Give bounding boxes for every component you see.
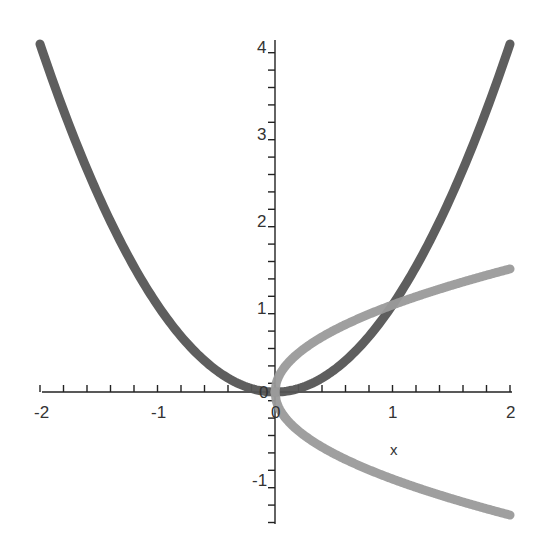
x-tick-label-neg2: -2: [34, 403, 49, 422]
x-axis-label: x: [390, 441, 398, 458]
x-tick-label-neg1: -1: [151, 403, 166, 422]
y-tick-label-2: 2: [257, 212, 266, 231]
y-tick-label-1: 1: [257, 299, 266, 318]
y-axis-ticks: [268, 53, 275, 523]
y-tick-label-4: 4: [257, 38, 266, 57]
axes: [42, 40, 512, 524]
y-tick-label-0: 0: [259, 383, 268, 402]
x-tick-label-2: 2: [506, 403, 515, 422]
curve-sqrt-positive: [275, 269, 510, 392]
y-tick-label-neg1: -1: [252, 471, 267, 490]
plot-area: -2 -1 0 1 2 4 3 2 1 0 -1 x: [0, 0, 547, 548]
x-tick-label-0: 0: [271, 403, 280, 422]
x-tick-label-1: 1: [388, 403, 397, 422]
y-tick-label-3: 3: [257, 125, 266, 144]
